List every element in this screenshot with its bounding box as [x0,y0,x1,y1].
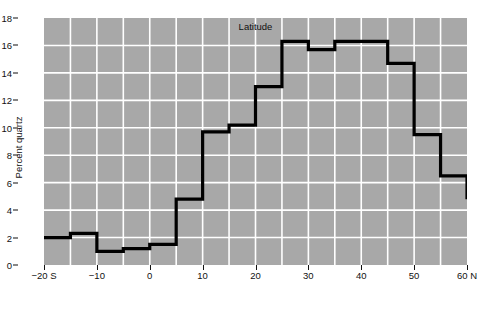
y-tick-label: 14 [1,67,12,78]
y-tick-mark [13,45,18,46]
y-tick-mark [13,72,18,73]
x-tick-label: −10 [89,270,105,281]
step-line-path [44,41,467,251]
x-axis-title: Latitude [44,21,467,32]
x-tick-mark [44,265,45,270]
y-tick-label: 10 [1,122,12,133]
x-tick-mark [150,265,151,270]
y-tick-label: 8 [7,150,12,161]
x-tick-mark [97,265,98,270]
x-tick-label: 0 [147,270,152,281]
x-tick-label: 60 N [457,270,477,281]
x-tick-label: 30 [303,270,314,281]
x-axis: −20 S−100102030405060 N [0,265,494,310]
y-tick-mark [13,18,18,19]
x-tick-mark [467,265,468,270]
y-tick-label: 2 [7,232,12,243]
x-tick-mark [308,265,309,270]
x-tick-label: 10 [197,270,208,281]
x-tick-mark [361,265,362,270]
plot-area [44,18,467,265]
y-tick-label: 18 [1,13,12,24]
x-tick-mark [203,265,204,270]
y-tick-label: 4 [7,205,12,216]
x-tick-mark [256,265,257,270]
x-tick-label: 20 [250,270,261,281]
x-tick-label: 50 [409,270,420,281]
y-axis-title: Percent quartz [13,83,24,213]
x-tick-mark [414,265,415,270]
quartz-step-series [44,18,467,265]
chart-figure: 024681012141618 Percent quartz −20 S−100… [0,0,494,310]
x-tick-label: −20 S [31,270,56,281]
y-tick-label: 12 [1,95,12,106]
y-tick-label: 16 [1,40,12,51]
y-tick-mark [13,237,18,238]
y-tick-label: 6 [7,177,12,188]
x-tick-label: 40 [356,270,367,281]
